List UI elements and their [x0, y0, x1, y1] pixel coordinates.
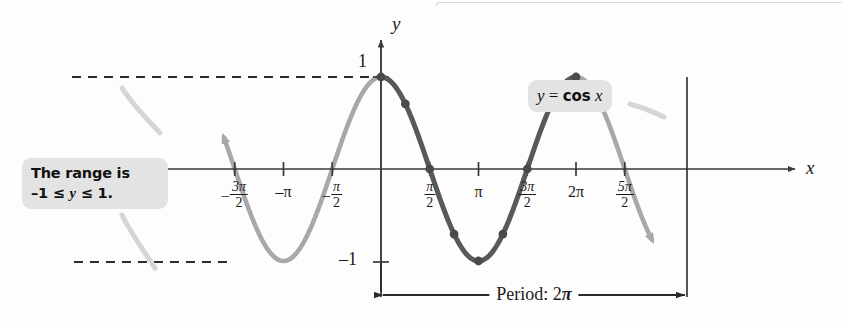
- x-axis-label: x: [806, 158, 814, 177]
- y-axis-label: y: [392, 14, 400, 33]
- x-tick-label: –π2: [322, 180, 342, 211]
- cosine-point: [523, 165, 532, 174]
- x-tick-label: –3π2: [221, 180, 248, 211]
- equation-argument: x: [591, 86, 603, 105]
- range-callout: The range is –1 ≤ y ≤ 1.: [22, 158, 168, 209]
- cosine-point: [450, 230, 459, 239]
- equation-lhs: y: [537, 86, 545, 105]
- equation-callout-leader: [630, 104, 664, 117]
- range-callout-line2: –1 ≤ y ≤ 1.: [31, 184, 159, 204]
- y-tick-label-minus-1: –1: [339, 250, 357, 268]
- range-callout-upper: ≤ 1.: [76, 185, 113, 201]
- x-tick-label: 2π: [568, 183, 584, 201]
- cosine-point: [401, 100, 410, 109]
- range-callout-lower: –1 ≤: [31, 185, 70, 201]
- equation-callout: y = cos x: [528, 80, 612, 112]
- period-label: Period: 2π: [489, 284, 578, 305]
- cosine-point: [377, 73, 386, 82]
- cosine-point: [425, 165, 434, 174]
- period-text: Period: 2: [496, 284, 562, 304]
- cosine-graph-figure: y x 1 –1 –3π2–π–π2π2π3π22π5π2 The range …: [0, 0, 842, 328]
- y-tick-label-1: 1: [358, 52, 367, 70]
- equation-equals: =: [545, 86, 563, 105]
- x-tick-label: π2: [424, 180, 435, 211]
- range-callout-line1: The range is: [31, 164, 159, 184]
- x-tick-label: π: [474, 183, 482, 201]
- x-tick-label: 5π2: [616, 180, 634, 211]
- x-tick-label: –π: [275, 183, 291, 201]
- cosine-point: [498, 230, 507, 239]
- cosine-point: [474, 257, 483, 266]
- equation-function-name: cos: [563, 87, 591, 105]
- x-tick-label: 3π2: [518, 180, 536, 211]
- period-pi-symbol: π: [562, 284, 572, 304]
